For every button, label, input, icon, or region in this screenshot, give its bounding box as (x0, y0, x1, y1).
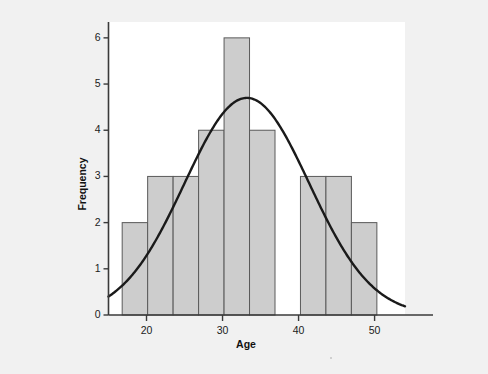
histogram-bar (300, 176, 325, 315)
y-axis-tick-label: 1 (87, 262, 101, 274)
decorative-speck (330, 357, 332, 359)
bars-group (122, 38, 377, 315)
y-axis-tick-label: 4 (87, 123, 101, 135)
x-axis-tick-label: 20 (132, 324, 162, 336)
histogram-bar (326, 176, 351, 315)
y-axis-title: Frequency (74, 139, 90, 229)
histogram-bar (224, 38, 249, 315)
x-axis-tick-label: 50 (360, 324, 390, 336)
screenshot-page: 0123456 20304050 Frequency Age (0, 0, 488, 374)
x-axis-tick-label: 30 (208, 324, 238, 336)
y-axis-tick-label: 0 (87, 308, 101, 320)
y-axis-tick-label: 5 (87, 77, 101, 89)
histogram-figure: 0123456 20304050 Frequency Age (0, 0, 488, 374)
x-axis-title-text: Age (236, 338, 256, 350)
y-axis-tick-label: 6 (87, 31, 101, 43)
x-axis-tick-label: 40 (284, 324, 314, 336)
histogram-bar (122, 223, 147, 315)
histogram-bar (199, 130, 224, 315)
histogram-bar (250, 130, 275, 315)
y-axis-title-text: Frequency (76, 157, 88, 210)
x-axis-title: Age (0, 338, 488, 350)
